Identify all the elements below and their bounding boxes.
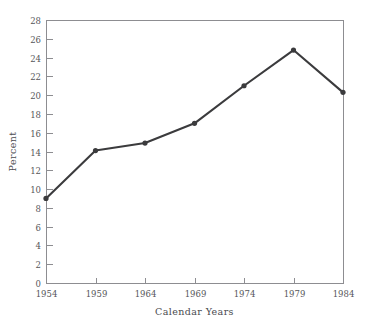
x-tick-label: 1964: [135, 289, 157, 299]
x-tick-label: 1954: [36, 289, 58, 299]
data-series: [43, 47, 345, 201]
x-tick-label: 1969: [185, 289, 207, 299]
data-point-marker: [291, 47, 296, 52]
y-axis-tick-labels: 0246810121416182022242628: [30, 16, 41, 289]
y-tick-label: 2: [36, 260, 41, 270]
y-tick-label: 0: [36, 279, 41, 289]
y-axis-ticks: [47, 21, 53, 284]
y-tick-label: 12: [30, 166, 41, 176]
x-tick-label: 1959: [86, 289, 108, 299]
plot-frame: [47, 21, 344, 284]
y-tick-label: 20: [30, 91, 41, 101]
y-tick-label: 10: [30, 185, 41, 195]
y-tick-label: 24: [30, 54, 41, 64]
y-tick-label: 26: [30, 35, 41, 45]
y-tick-label: 4: [36, 241, 41, 251]
y-tick-label: 8: [36, 204, 41, 214]
y-tick-label: 18: [30, 110, 41, 120]
line-chart: 0246810121416182022242628 19541959196419…: [0, 0, 365, 331]
data-point-marker: [340, 90, 345, 95]
chart-canvas: 0246810121416182022242628 19541959196419…: [0, 0, 365, 331]
data-point-marker: [192, 121, 197, 126]
y-tick-label: 22: [30, 72, 41, 82]
y-axis-title: Percent: [7, 132, 18, 172]
x-axis-title: Calendar Years: [155, 306, 234, 317]
x-axis-ticks: [47, 278, 344, 284]
x-tick-label: 1974: [234, 289, 256, 299]
x-tick-label: 1984: [333, 289, 355, 299]
y-tick-label: 16: [30, 129, 41, 139]
x-tick-label: 1979: [284, 289, 306, 299]
x-axis-tick-labels: 1954195919641969197419791984: [36, 289, 355, 299]
data-point-marker: [142, 140, 147, 145]
data-point-marker: [93, 148, 98, 153]
y-tick-label: 28: [30, 16, 41, 26]
data-point-marker: [241, 83, 246, 88]
data-point-marker: [43, 196, 48, 201]
y-tick-label: 6: [36, 223, 41, 233]
y-tick-label: 14: [30, 148, 41, 158]
